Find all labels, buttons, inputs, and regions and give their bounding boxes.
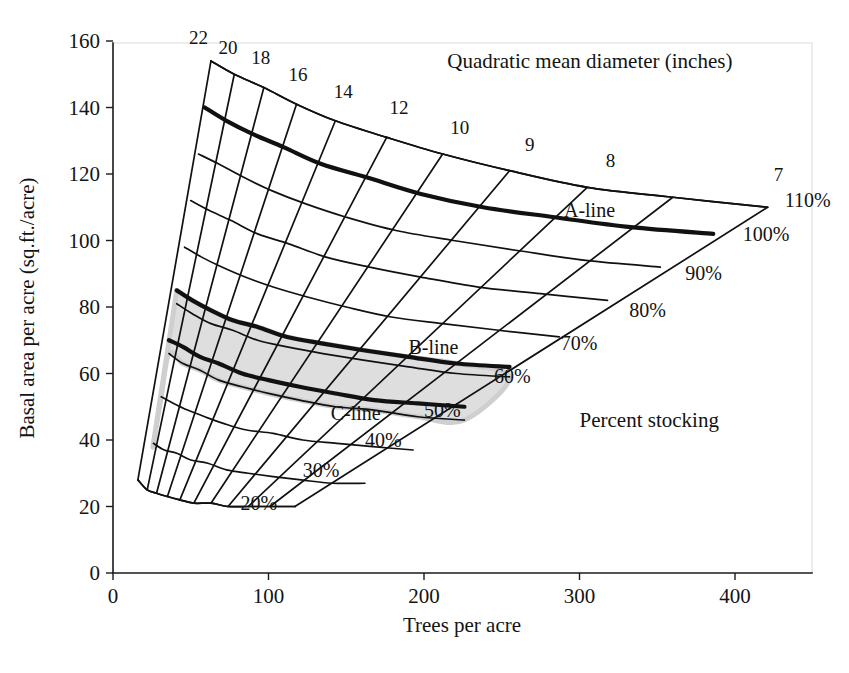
y-axis-title: Basal area per acre (sq.ft./acre)	[15, 177, 39, 438]
a-line-label: A-line	[564, 199, 615, 221]
x-tick-label-200: 200	[408, 584, 440, 608]
y-tick-label-100: 100	[69, 229, 101, 253]
diameter-label-16: 16	[289, 64, 308, 85]
stocking-chart-figure: 020406080100120140160 0100200300400 2220…	[0, 0, 849, 673]
percent-label-30pct: 30%	[303, 459, 340, 481]
percent-label-20pct: 20%	[241, 492, 278, 514]
diameter-line-22	[138, 61, 211, 480]
y-tick-label-20: 20	[79, 495, 100, 519]
y-tick-label-60: 60	[79, 362, 100, 386]
percent-label-100pct: 100%	[743, 223, 790, 245]
c-line-label: C-line	[331, 402, 381, 424]
b-line-label: B-line	[408, 336, 458, 358]
percent-label-80pct: 80%	[629, 299, 666, 321]
x-tick-group: 0100200300400	[108, 573, 751, 608]
diameter-label-12: 12	[390, 97, 409, 118]
diameter-line-18	[157, 88, 264, 494]
diameter-label-20: 20	[219, 37, 238, 58]
percent-stocking-title: Percent stocking	[580, 408, 720, 432]
y-tick-label-120: 120	[69, 162, 101, 186]
x-tick-label-100: 100	[253, 584, 285, 608]
x-tick-label-0: 0	[108, 584, 119, 608]
x-tick-label-400: 400	[719, 584, 751, 608]
y-tick-label-160: 160	[69, 29, 101, 53]
y-tick-label-140: 140	[69, 96, 101, 120]
diameter-label-22: 22	[189, 27, 208, 48]
y-tick-group: 020406080100120140160	[69, 29, 114, 585]
percent-label-40pct: 40%	[365, 429, 402, 451]
x-axis-title: Trees per acre	[403, 613, 521, 637]
percent-label-50pct: 50%	[424, 399, 461, 421]
diameter-label-10: 10	[450, 117, 469, 138]
diameter-axis-title: Quadratic mean diameter (inches)	[447, 49, 732, 73]
percent-label-110pct: 110%	[785, 189, 831, 211]
diameter-label-7: 7	[774, 164, 784, 185]
diameter-label-9: 9	[525, 134, 535, 155]
percent-label-70pct: 70%	[561, 332, 598, 354]
y-tick-label-40: 40	[79, 428, 100, 452]
diameter-label-18: 18	[251, 47, 270, 68]
x-tick-label-300: 300	[564, 584, 596, 608]
percent-label-60pct: 60%	[494, 365, 531, 387]
diameter-label-14: 14	[334, 81, 354, 102]
y-tick-label-80: 80	[79, 295, 100, 319]
stocking-chart-svg: 020406080100120140160 0100200300400 2220…	[0, 0, 849, 673]
percent-label-90pct: 90%	[685, 262, 722, 284]
diameter-label-8: 8	[606, 150, 616, 171]
y-tick-label-0: 0	[90, 561, 101, 585]
